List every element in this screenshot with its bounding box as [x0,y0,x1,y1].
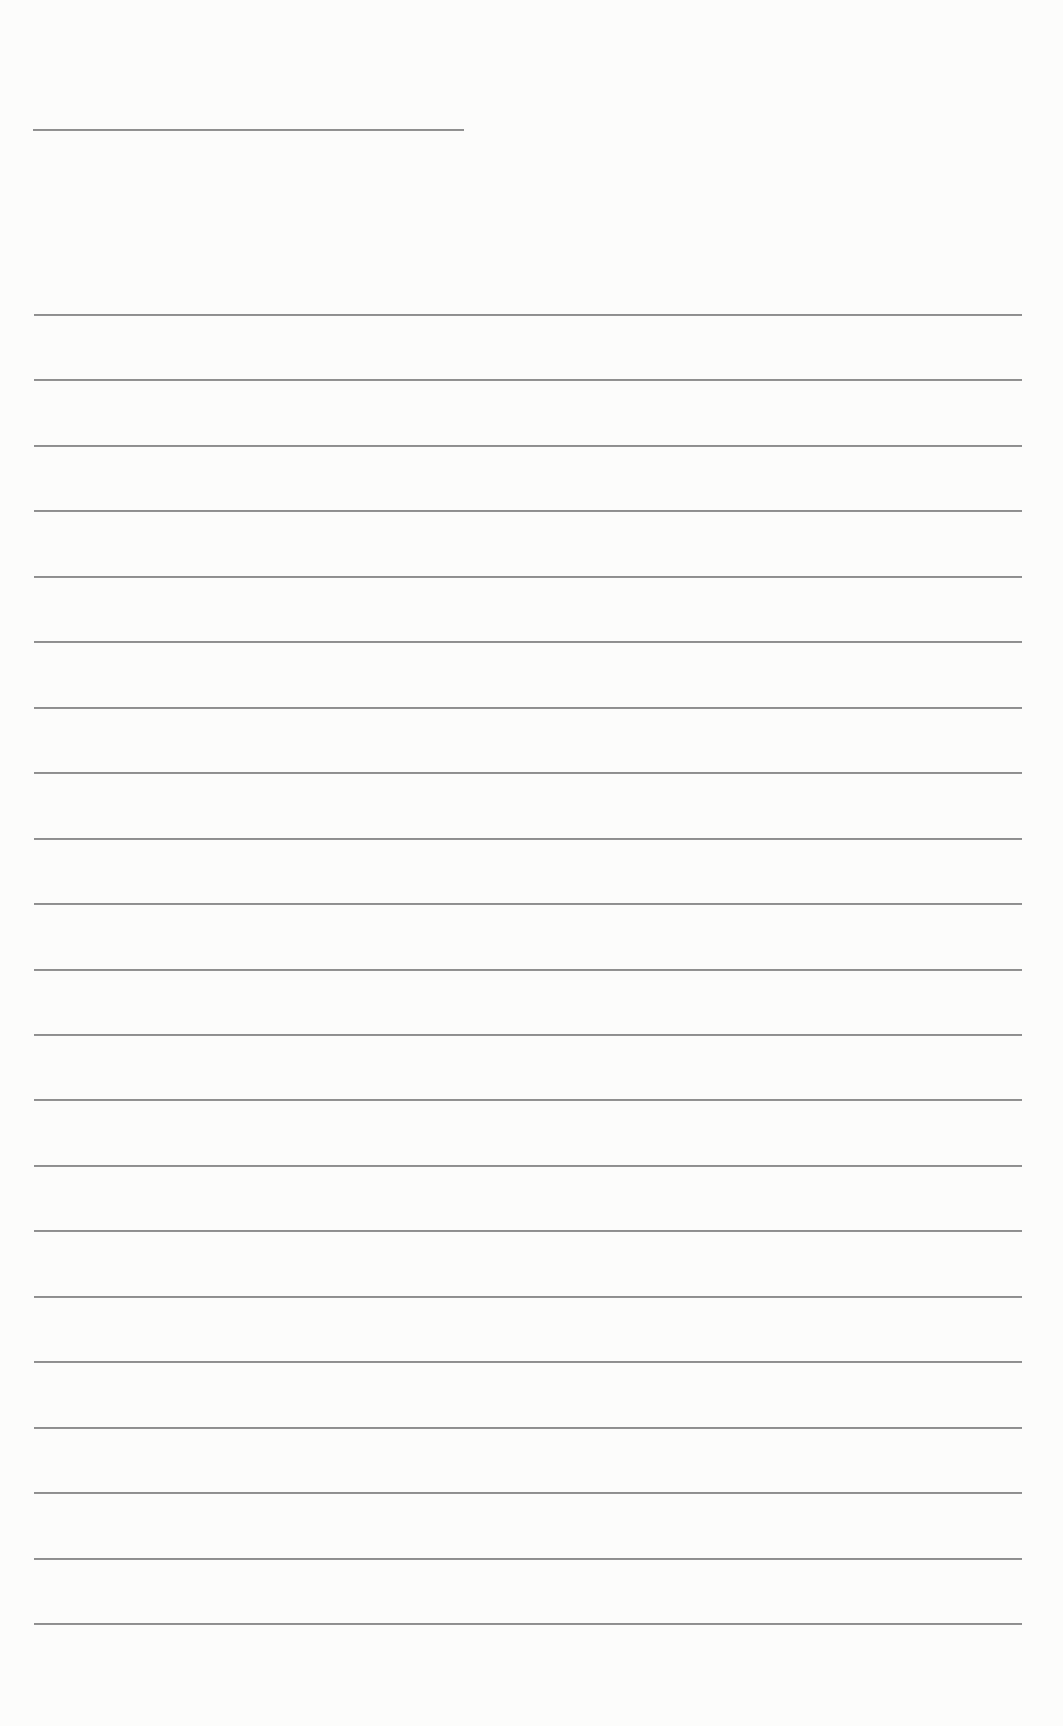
writing-line [34,1558,1022,1560]
writing-line [34,379,1022,381]
writing-line [34,1296,1022,1298]
writing-line [34,1623,1022,1625]
writing-line [34,707,1022,709]
writing-line [34,1427,1022,1429]
writing-line [34,903,1022,905]
writing-line [34,641,1022,643]
writing-line [34,1492,1022,1494]
writing-line [34,838,1022,840]
lined-paper-sheet [0,0,1063,1726]
writing-line [34,969,1022,971]
writing-line [34,772,1022,774]
writing-line [34,445,1022,447]
writing-line [34,1099,1022,1101]
writing-line [34,510,1022,512]
writing-line [34,1034,1022,1036]
writing-line [34,1230,1022,1232]
writing-line [34,1165,1022,1167]
writing-line [34,576,1022,578]
writing-line [34,314,1022,316]
header-title-line [33,129,464,131]
writing-line [34,1361,1022,1363]
